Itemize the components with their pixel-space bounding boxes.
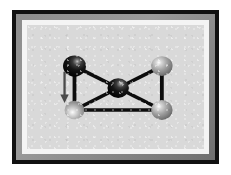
graph-diagram: top-left to centercenter to top-rightbot… (27, 25, 204, 149)
figure-root: Graph with five spherical nodes A framed… (0, 0, 231, 175)
figure-description: A framed illustration of an undirected g… (0, 16, 1, 17)
frame-mat: top-left to centercenter to top-rightbot… (22, 20, 209, 154)
canvas-area: top-left to centercenter to top-rightbot… (27, 25, 204, 149)
picture-frame: top-left to centercenter to top-rightbot… (12, 10, 219, 164)
figure-title: Graph with five spherical nodes (0, 21, 1, 22)
frame-bevel: top-left to centercenter to top-rightbot… (16, 14, 215, 160)
arrow-head-icon (60, 94, 68, 103)
graph-node: top-left node (63, 55, 86, 76)
graph-node: bottom-left node (65, 101, 85, 119)
annotation-arrow: downward arrow pointing to bottom-left n… (60, 72, 68, 103)
graph-node: top-right node (151, 56, 172, 76)
graph-node: center node (107, 78, 128, 98)
graph-node: bottom-right node (151, 100, 172, 120)
